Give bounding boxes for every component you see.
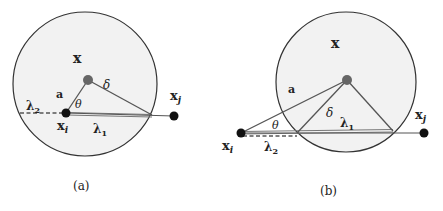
theta-label-a: θ xyxy=(75,98,82,111)
xj-label-a: xj xyxy=(170,88,182,105)
theta-label-b: θ xyxy=(272,119,279,132)
caption-a: (a) xyxy=(73,179,90,193)
delta-label-b: δ xyxy=(326,106,333,120)
caption-b: (b) xyxy=(320,184,337,198)
delta-label-a: δ xyxy=(103,78,110,92)
a-label-a: a xyxy=(56,88,63,101)
xi-point-b xyxy=(237,129,246,138)
panel-a: x δ a θ λ2 xi λ1 xj (a) xyxy=(13,12,182,193)
panel-b: x a δ λ1 θ xi λ2 xj (b) xyxy=(222,12,429,198)
lambda2-label-b: λ2 xyxy=(264,140,278,156)
center-label-b: x xyxy=(331,35,340,51)
center-point-a xyxy=(83,75,93,85)
xi-point-a xyxy=(62,109,71,118)
center-label-a: x xyxy=(73,50,82,66)
xj-label-b: xj xyxy=(415,107,427,124)
figure-canvas: x δ a θ λ2 xi λ1 xj (a) x a δ λ1 θ xi xyxy=(0,0,443,211)
a-label-b: a xyxy=(288,83,295,96)
xj-point-a xyxy=(170,112,179,121)
center-point-b xyxy=(342,75,352,85)
xi-label-b: xi xyxy=(222,138,234,155)
xj-point-b xyxy=(420,129,429,138)
